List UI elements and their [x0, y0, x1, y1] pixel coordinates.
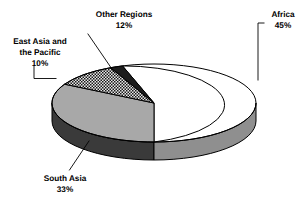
- leader-line-other-regions: [88, 34, 114, 72]
- label-africa-percent: 45%: [275, 21, 292, 30]
- label-south-asia-name: South Asia: [44, 174, 87, 183]
- label-east-asia-line2: the Pacific: [20, 48, 61, 57]
- label-south-asia-percent: 33%: [57, 185, 74, 194]
- label-east-asia-percent: 10%: [32, 59, 49, 68]
- label-other-regions-percent: 12%: [116, 21, 133, 30]
- pie-chart-figure: Africa 45% Other Regions 12% East Asia a…: [0, 0, 297, 204]
- leader-line-africa: [258, 23, 264, 80]
- label-africa-name: Africa: [271, 10, 295, 19]
- label-other-regions-name: Other Regions: [96, 10, 153, 19]
- label-east-asia-line1: East Asia and: [13, 37, 66, 46]
- pie-chart-svg: Africa 45% Other Regions 12% East Asia a…: [0, 0, 297, 204]
